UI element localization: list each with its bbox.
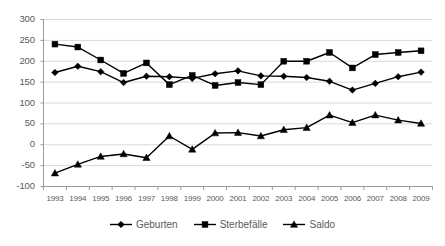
y-axis-tick-label: 0	[5, 139, 35, 149]
chart-legend: GeburtenSterbefälleSaldo	[0, 219, 445, 230]
data-point-marker	[166, 73, 173, 80]
data-point-marker	[143, 73, 150, 80]
data-point-marker	[121, 70, 127, 76]
legend-label: Saldo	[309, 219, 335, 230]
legend-marker-diamond-icon	[110, 220, 132, 229]
data-point-marker	[166, 132, 173, 138]
y-axis-tick-label: 50	[5, 118, 35, 128]
plot-area	[0, 0, 445, 246]
data-point-marker	[326, 78, 333, 85]
y-axis-tick-label: -50	[5, 160, 35, 170]
data-point-marker	[258, 82, 264, 88]
data-point-marker	[303, 74, 310, 81]
data-point-marker	[189, 73, 195, 79]
data-point-marker	[75, 63, 82, 70]
data-point-marker	[418, 48, 424, 54]
data-point-marker	[304, 58, 310, 64]
data-point-marker	[52, 69, 59, 76]
axes	[41, 20, 433, 191]
data-point-marker	[372, 112, 379, 118]
data-point-marker	[235, 80, 241, 86]
data-point-marker	[212, 70, 219, 77]
legend-marker-triangle-icon	[283, 220, 305, 229]
data-point-marker	[97, 68, 104, 75]
data-point-marker	[395, 50, 401, 56]
data-point-marker	[120, 79, 127, 86]
y-axis-tick-label: -100	[5, 181, 35, 191]
data-point-marker	[75, 44, 81, 50]
data-point-marker	[98, 57, 104, 63]
x-axis-tick-label: 2009	[408, 194, 434, 203]
legend-item-saldo[interactable]: Saldo	[283, 219, 335, 230]
line-chart: 300250200150100500-50-100 19931994199519…	[0, 0, 445, 246]
y-axis-tick-label: 300	[5, 14, 35, 24]
data-point-marker	[372, 80, 379, 87]
y-axis-tick-label: 100	[5, 98, 35, 108]
data-point-marker	[280, 73, 287, 80]
data-point-marker	[281, 58, 287, 64]
data-point-marker	[372, 52, 378, 58]
data-point-marker	[52, 41, 58, 47]
y-axis-tick-label: 200	[5, 56, 35, 66]
data-point-marker	[349, 87, 356, 94]
data-point-marker	[144, 60, 150, 66]
y-axis-tick-label: 150	[5, 77, 35, 87]
y-axis-tick-label: 250	[5, 35, 35, 45]
legend-item-geburten[interactable]: Geburten	[110, 219, 178, 230]
data-point-marker	[395, 73, 402, 80]
data-point-marker	[235, 68, 242, 75]
gridlines	[44, 20, 433, 187]
legend-marker-square-icon	[194, 220, 216, 229]
series-sterbef-lle	[52, 41, 424, 88]
legend-label: Sterbefälle	[220, 219, 268, 230]
data-point-marker	[326, 112, 333, 118]
data-point-marker	[418, 69, 425, 76]
legend-label: Geburten	[136, 219, 178, 230]
data-point-marker	[212, 83, 218, 89]
data-point-marker	[350, 65, 356, 71]
series-line	[55, 44, 421, 85]
data-point-marker	[327, 50, 333, 56]
series-saldo	[51, 112, 424, 176]
data-point-marker	[258, 73, 265, 80]
data-point-marker	[166, 82, 172, 88]
legend-item-sterbef-lle[interactable]: Sterbefälle	[194, 219, 268, 230]
series-geburten	[52, 63, 425, 93]
